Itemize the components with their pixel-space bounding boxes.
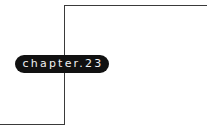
bottom-rule-line [0,124,65,125]
chapter-label: chapter.23 [15,55,109,73]
top-rule-line [64,5,207,6]
